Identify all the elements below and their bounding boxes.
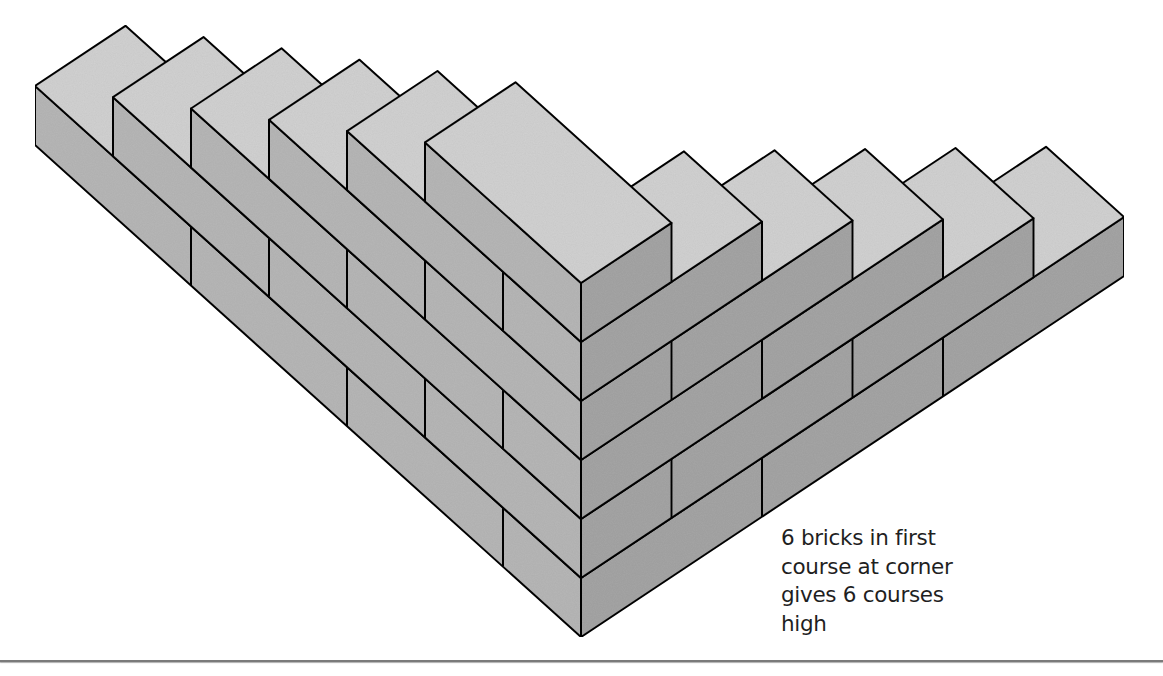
diagram-caption: 6 bricks in first course at corner gives… [781,524,1081,638]
caption-line-1: 6 bricks in first [781,524,1081,553]
caption-line-2: course at corner [781,553,1081,582]
caption-line-3: gives 6 courses [781,581,1081,610]
bottom-divider-rule [0,660,1163,662]
caption-line-4: high [781,610,1081,639]
